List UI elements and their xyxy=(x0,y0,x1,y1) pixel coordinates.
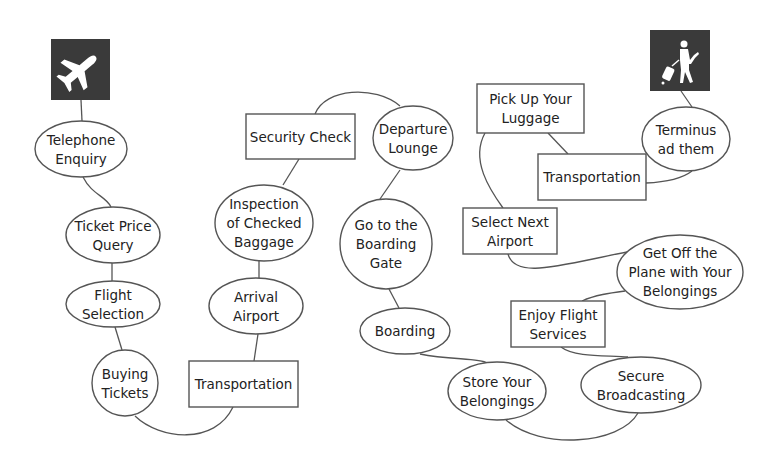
node-label: Pick Up Your xyxy=(489,91,572,107)
node-label: Tickets xyxy=(101,385,149,401)
node-label: Telephone xyxy=(46,132,116,148)
connector-line xyxy=(389,289,399,308)
node-label: Airport xyxy=(487,233,533,249)
node-label: Gate xyxy=(370,255,402,271)
connector-line xyxy=(548,133,568,154)
node-secure-broadcasting: SecureBroadcasting xyxy=(581,357,701,413)
node-label: Store Your xyxy=(463,374,532,390)
connector-line xyxy=(135,407,233,435)
connector-line xyxy=(283,159,299,185)
node-transportation: Transportation xyxy=(189,361,298,407)
node-enjoy-flight-services: Enjoy FlightServices xyxy=(511,301,605,347)
node-label: Terminus xyxy=(655,122,717,138)
node-label: Arrival xyxy=(234,289,278,305)
node-ticket-price-query: Ticket PriceQuery xyxy=(66,207,160,263)
node-label: Flight xyxy=(94,287,132,303)
node-label: Broadcasting xyxy=(597,387,686,403)
ellipse-node-shape xyxy=(209,278,303,334)
node-label: Enjoy Flight xyxy=(518,307,597,323)
node-label: Go to the xyxy=(354,217,417,233)
node-label: Belongings xyxy=(643,283,718,299)
node-label: Boarding xyxy=(375,323,436,339)
node-pick-up-your-luggage: Pick Up YourLuggage xyxy=(477,84,584,133)
ellipse-node-shape xyxy=(642,107,730,171)
node-go-to-the-boarding-gate: Go to theBoardingGate xyxy=(340,199,432,289)
node-flight-selection: FlightSelection xyxy=(66,281,160,327)
node-label: Airport xyxy=(233,308,279,324)
traveler-with-luggage-icon xyxy=(650,30,710,91)
connector-line xyxy=(380,170,400,199)
connector-line xyxy=(115,327,122,350)
connector-line xyxy=(83,177,111,207)
ellipse-node-shape xyxy=(448,362,546,420)
node-security-check: Security Check xyxy=(246,114,355,159)
node-label: Selection xyxy=(82,306,144,322)
connector-line xyxy=(254,334,258,361)
node-select-next-airport: Select NextAirport xyxy=(463,208,557,254)
node-label: Get Off the xyxy=(643,245,718,261)
node-label: Query xyxy=(92,237,133,253)
node-label: Services xyxy=(530,326,587,342)
ellipse-node-shape xyxy=(66,207,160,263)
node-telephone-enquiry: TelephoneEnquiry xyxy=(35,121,127,177)
ellipse-node-shape xyxy=(373,106,453,170)
connector-line xyxy=(480,133,503,208)
connector-line xyxy=(646,171,692,183)
node-label: Luggage xyxy=(501,110,559,126)
node-label: Inspection xyxy=(229,196,299,212)
connector-line xyxy=(420,354,487,363)
process-flow-diagram: TelephoneEnquiryTicket PriceQueryFlightS… xyxy=(0,0,775,461)
ellipse-node-shape xyxy=(581,357,701,413)
node-store-your-belongings: Store YourBelongings xyxy=(448,362,546,420)
node-label: Enquiry xyxy=(55,151,107,167)
connector-line xyxy=(81,100,82,121)
node-label: Ticket Price xyxy=(73,218,151,234)
node-label: Belongings xyxy=(460,393,535,409)
node-departure-lounge: DepartureLounge xyxy=(373,106,453,170)
node-transportation: Transportation xyxy=(538,154,646,200)
node-get-off-the-plane-with-your-belongings: Get Off thePlane with YourBelongings xyxy=(617,235,743,309)
node-label: Plane with Your xyxy=(628,264,732,280)
connector-line xyxy=(681,91,692,107)
node-layer: TelephoneEnquiryTicket PriceQueryFlightS… xyxy=(35,84,743,420)
ellipse-node-shape xyxy=(35,121,127,177)
node-arrival-airport: ArrivalAirport xyxy=(209,278,303,334)
connector-line xyxy=(315,92,400,114)
node-label: ad them xyxy=(658,141,714,157)
node-label: Security Check xyxy=(250,129,351,145)
diagram-canvas: TelephoneEnquiryTicket PriceQueryFlightS… xyxy=(0,0,775,461)
node-label: Buying xyxy=(102,366,149,382)
node-inspection-of-checked-baggage: Inspectionof CheckedBaggage xyxy=(215,185,313,261)
node-terminus-ad-them: Terminusad them xyxy=(642,107,730,171)
node-boarding: Boarding xyxy=(360,308,450,354)
node-label: Transportation xyxy=(542,169,640,185)
connector-line xyxy=(506,413,638,440)
node-label: Transportation xyxy=(194,376,292,392)
icon-layer xyxy=(51,30,710,100)
ellipse-node-shape xyxy=(92,350,158,416)
node-label: Select Next xyxy=(471,214,548,230)
airplane-icon xyxy=(51,39,110,100)
node-label: of Checked xyxy=(226,215,301,231)
node-label: Boarding xyxy=(356,236,417,252)
node-label: Baggage xyxy=(234,234,294,250)
connector-line xyxy=(582,291,625,301)
node-label: Secure xyxy=(618,368,664,384)
node-label: Departure xyxy=(379,121,448,137)
node-buying-tickets: BuyingTickets xyxy=(92,350,158,416)
connector-line xyxy=(561,347,628,357)
node-label: Lounge xyxy=(388,140,438,156)
